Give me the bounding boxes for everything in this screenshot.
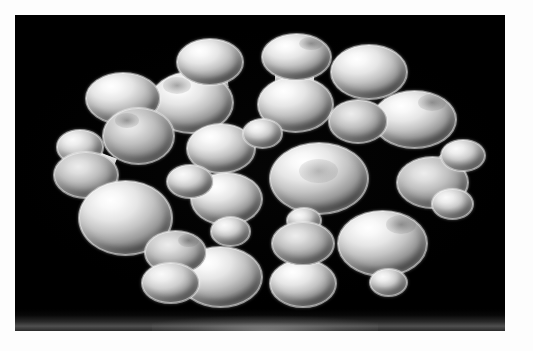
cell-mid-centre-bud-bot [211,217,250,245]
cell-right-mid-bud [441,140,485,172]
cell-left-mid [103,108,174,163]
cell-bottom-centre-bud [272,222,333,265]
cell-bottom-left-bud-low [142,263,198,303]
cell-top-left-pair-bud [177,39,243,85]
cell-core-large [270,143,368,214]
photograph-plate [15,15,505,331]
cell-centre-bud [243,119,282,147]
cell-top-centre-bud [262,34,331,80]
cell-right-upper-bud [329,100,388,143]
screenshot-root: Dark-field photomicrograph of a rosette … [0,0,533,351]
cell-bottom-right-large [338,211,426,276]
cell-bottom-right-bud [370,269,407,296]
cell-top-right [331,45,407,99]
cell-bottom-centre-mother [270,260,336,307]
cell-right-mid-bud-lower [432,189,474,219]
yeast-cell-cluster [15,15,505,331]
